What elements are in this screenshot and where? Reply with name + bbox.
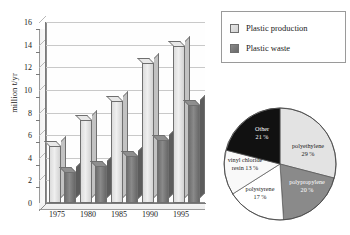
chart-figure: million t/yr (0, 0, 350, 235)
legend-item-plastic-waste: Plastic waste (230, 43, 290, 53)
x-tick-label-1995: 1995 (161, 210, 201, 219)
legend-swatch-icon-production (230, 24, 239, 33)
gridline-16 (46, 22, 205, 23)
pie-label-polyethylene: polyethylene 29 % (280, 142, 336, 157)
pie-label-polypropylene: polypropylene 20 % (280, 178, 334, 193)
pie-chart: polyethylene 29 % polypropylene 20 % pol… (218, 102, 342, 226)
pie-label-vinyl-chloride-resin: vinyl chloride resin 13 % (217, 156, 273, 171)
bar-production-1975 (49, 146, 61, 203)
y-tick-label-12: 12 (10, 63, 32, 72)
pie-label-other: Other 21 % (242, 125, 282, 140)
chart-legend: Plastic production Plastic waste (221, 11, 346, 63)
y-tick-label-0: 0 (10, 199, 32, 208)
x-axis-line (45, 203, 206, 204)
bar-production-1990 (142, 63, 154, 203)
pie-label-polystyrene: polystyrene 17 % (234, 185, 286, 200)
bar-waste-1975 (64, 172, 76, 203)
y-tick-label-6: 6 (10, 131, 32, 140)
bar-waste-1990 (157, 140, 169, 203)
bar-waste-1985 (126, 156, 138, 204)
bar-waste-1980 (95, 166, 107, 203)
y-tick-label-14: 14 (10, 41, 32, 50)
y-tick-label-2: 2 (10, 176, 32, 185)
bar-production-1995 (173, 46, 185, 203)
legend-item-plastic-production: Plastic production (230, 23, 308, 33)
y-tick-label-8: 8 (10, 109, 32, 118)
legend-label-waste: Plastic waste (246, 43, 290, 53)
bar-waste-1995 (188, 105, 200, 203)
legend-swatch-icon-waste (230, 44, 239, 53)
y-tick-label-16: 16 (10, 18, 32, 27)
y-tick-label-4: 4 (10, 154, 32, 163)
plot-floor (39, 203, 205, 210)
y-tick-label-10: 10 (10, 86, 32, 95)
legend-label-production: Plastic production (246, 23, 308, 33)
y-axis-line (45, 22, 46, 204)
bar-chart: million t/yr (0, 0, 215, 235)
